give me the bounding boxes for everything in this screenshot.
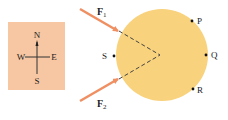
- force-diagram: N S W E F1 F2 S P Q R: [0, 0, 228, 120]
- force-f2-label: F2: [97, 98, 107, 111]
- point-q-label: Q: [211, 50, 218, 60]
- point-p-label: P: [197, 16, 202, 26]
- point-s-label: S: [102, 51, 107, 61]
- force-f1-label: F1: [97, 6, 107, 19]
- disc: [116, 9, 208, 101]
- compass-north-label: N: [34, 30, 41, 40]
- compass-east-label: E: [51, 52, 57, 62]
- point-r-label: R: [197, 85, 203, 95]
- compass-west-label: W: [17, 52, 26, 62]
- compass: N S W E: [8, 22, 65, 90]
- point-s: S: [102, 51, 115, 61]
- compass-south-label: S: [34, 76, 39, 86]
